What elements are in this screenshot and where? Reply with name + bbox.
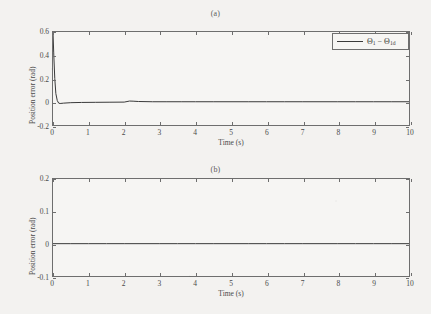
y-tick-label: 0.6 [40,27,49,36]
subplot-a-legend: Θ1 − Θ1d [332,33,409,50]
x-tick [375,122,376,125]
x-tick-label: 9 [372,279,376,288]
x-tick [53,273,54,276]
y-tick [53,32,56,33]
x-tick-label: 3 [158,279,162,288]
y-tick-label: 0.1 [40,207,49,216]
x-tick-label: 7 [301,279,305,288]
y-tick [53,80,56,81]
x-tick [339,273,340,276]
x-tick [411,122,412,125]
legend-theta-1: Θ [367,37,373,46]
x-tick-label: 8 [337,279,341,288]
x-tick [411,179,412,182]
x-tick [89,179,90,182]
x-tick-label: 2 [122,279,126,288]
x-tick [89,122,90,125]
x-tick-label: 8 [337,128,341,137]
x-tick-label: 5 [229,279,233,288]
x-tick-label: 1 [86,279,90,288]
y-tick [406,80,409,81]
y-tick [53,212,56,213]
subplot-b-ylabel: Position error (rad) [28,218,37,275]
legend-theta-1d: Θ [384,37,390,46]
x-tick-label: 2 [122,128,126,137]
x-tick-label: 9 [372,128,376,137]
x-tick [268,273,269,276]
subplot-b-title: (b) [0,165,431,174]
x-tick [375,179,376,182]
subplot-b-plot-area [53,179,409,276]
x-tick [232,179,233,182]
x-tick [232,273,233,276]
x-tick [304,32,305,35]
x-tick-label: 0 [50,128,54,137]
y-tick-label: 0 [45,240,49,249]
x-tick-label: 7 [301,128,305,137]
x-tick-label: 4 [193,128,197,137]
x-tick [304,179,305,182]
x-tick [268,122,269,125]
y-tick [406,103,409,104]
subplot-b: (b) Position error (rad) Θ2 − Θ2d Time (… [0,157,431,314]
legend-sub-1d: 1d [390,40,396,46]
figure-root: (a) Position error (rad) Θ1 − Θ1d Time (… [0,0,431,314]
x-tick-label: 3 [158,128,162,137]
x-tick-label: 5 [229,128,233,137]
subplot-b-xlabel: Time (s) [52,289,410,298]
x-tick [232,32,233,35]
legend-minus-a: − [378,37,383,46]
x-tick [125,179,126,182]
x-tick [160,273,161,276]
x-tick [304,273,305,276]
subplot-a-ylabel: Position error (rad) [28,67,37,124]
subplot-a-xlabel: Time (s) [52,138,410,147]
x-tick [196,122,197,125]
x-tick [304,122,305,125]
x-tick-label: 10 [406,128,414,137]
y-tick [53,56,56,57]
y-tick [406,56,409,57]
x-tick-label: 6 [265,128,269,137]
x-tick [196,179,197,182]
y-tick-label: 0 [45,98,49,107]
x-tick-label: 1 [86,128,90,137]
x-tick [196,32,197,35]
y-tick-label: 0.4 [40,50,49,59]
subplot-a: (a) Position error (rad) Θ1 − Θ1d Time (… [0,0,431,157]
x-tick [411,32,412,35]
subplot-b-series-path [53,179,409,276]
x-tick [125,32,126,35]
y-tick [53,179,56,180]
x-tick [268,179,269,182]
subplot-b-axes [52,178,410,277]
x-tick [89,273,90,276]
x-tick [89,32,90,35]
x-tick [232,122,233,125]
legend-line-sample-a [337,41,363,42]
x-tick [160,122,161,125]
legend-label-a: Θ1 − Θ1d [367,38,395,46]
x-tick [125,273,126,276]
x-tick [375,273,376,276]
x-tick-label: 4 [193,279,197,288]
x-tick-label: 0 [50,279,54,288]
y-tick [406,212,409,213]
legend-sub-1: 1 [373,40,376,46]
y-tick [53,103,56,104]
x-tick [160,32,161,35]
y-tick [406,245,409,246]
x-tick-label: 10 [406,279,414,288]
y-tick-label: -0.2 [37,122,49,131]
x-tick [268,32,269,35]
y-tick [53,245,56,246]
x-tick [53,122,54,125]
x-tick [339,179,340,182]
y-tick-label: 0.2 [40,74,49,83]
subplot-a-title: (a) [0,9,431,18]
x-tick [411,273,412,276]
x-tick [160,179,161,182]
x-tick [339,122,340,125]
x-tick [196,273,197,276]
x-tick [125,122,126,125]
